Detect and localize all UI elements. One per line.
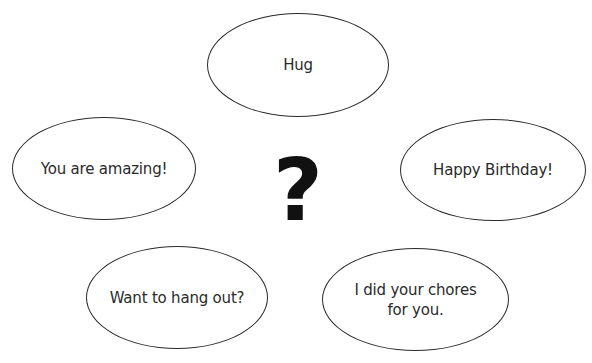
bubble-happy-birthday: Happy Birthday!	[400, 119, 586, 221]
bubble-want-to-hang-out: Want to hang out?	[86, 246, 268, 349]
bubble-label: Hug	[283, 55, 313, 75]
bubble-you-are-amazing: You are amazing!	[12, 117, 196, 220]
bubble-label: Happy Birthday!	[433, 160, 553, 180]
bubble-did-your-chores: I did your chores for you.	[322, 248, 509, 351]
bubble-hug: Hug	[207, 13, 389, 117]
bubble-label: I did your chores for you.	[354, 280, 476, 320]
bubble-label: You are amazing!	[41, 159, 168, 179]
bubble-label: Want to hang out?	[110, 288, 245, 308]
question-mark-icon: ?	[268, 140, 328, 240]
